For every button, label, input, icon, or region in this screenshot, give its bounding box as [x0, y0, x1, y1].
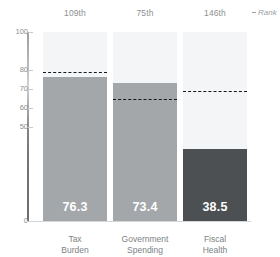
- category-label-line2: Spending: [113, 245, 177, 256]
- category-label-line1: Government: [113, 234, 177, 245]
- category-label-government-spending: Government Spending: [113, 234, 177, 255]
- bar-group-government-spending[interactable]: 73.4: [113, 32, 177, 222]
- rank-marker-fiscal-health: [183, 91, 247, 92]
- y-axis-tick-label-50: 50: [8, 123, 28, 131]
- category-label-line2: Health: [183, 245, 247, 256]
- category-label-tax-burden: Tax Burden: [43, 234, 107, 255]
- rank-marker-tax-burden: [43, 72, 107, 73]
- bar-group-tax-burden[interactable]: 76.3: [43, 32, 107, 222]
- bar-group-fiscal-health[interactable]: 38.5: [183, 32, 247, 222]
- grouped-bar-chart: 109th 75th 146th Rank 100 80 70 60 50 0 …: [0, 0, 280, 257]
- bar-value-label: 76.3: [43, 200, 107, 214]
- bar-value-label: 73.4: [113, 200, 177, 214]
- y-axis-tick-label-80: 80: [8, 66, 28, 74]
- y-axis-tick-label-60: 60: [8, 104, 28, 112]
- y-axis-tick-label-100: 100: [8, 28, 28, 36]
- bar-fiscal-health[interactable]: 38.5: [183, 149, 247, 222]
- rank-marker-government-spending: [113, 99, 177, 100]
- category-label-line1: Tax: [43, 234, 107, 245]
- category-label-line2: Burden: [43, 245, 107, 256]
- bar-tax-burden[interactable]: 76.3: [43, 77, 107, 222]
- plot-area: 100 80 70 60 50 0 76.3 73.4 38.5: [0, 0, 280, 232]
- x-axis-baseline: [27, 221, 251, 222]
- category-label-fiscal-health: Fiscal Health: [183, 234, 247, 255]
- category-label-line1: Fiscal: [183, 234, 247, 245]
- y-axis-tick-label-0: 0: [8, 217, 28, 225]
- bar-government-spending[interactable]: 73.4: [113, 83, 177, 222]
- y-axis-tick-label-70: 70: [8, 85, 28, 93]
- bar-value-label: 38.5: [183, 200, 247, 214]
- category-label-row: Tax Burden Government Spending Fiscal He…: [0, 230, 280, 257]
